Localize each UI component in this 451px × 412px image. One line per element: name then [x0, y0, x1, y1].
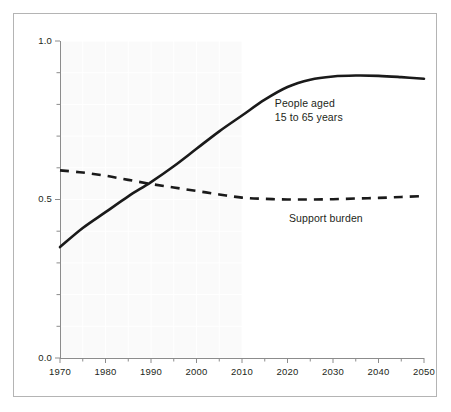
annotation-people-line2: 15 to 65 years — [275, 111, 343, 125]
x-tick-label-2040: 2040 — [366, 366, 392, 377]
x-tick-label-2030: 2030 — [320, 366, 346, 377]
annotation-people-aged: People aged 15 to 65 years — [275, 97, 343, 124]
x-tick-label-2000: 2000 — [184, 366, 210, 377]
annotation-support-burden: Support burden — [289, 212, 363, 226]
chart-plot-svg — [0, 0, 451, 412]
x-tick-label-1990: 1990 — [138, 366, 164, 377]
x-tick-label-1970: 1970 — [47, 366, 73, 377]
annotation-people-line1: People aged — [275, 97, 343, 111]
x-tick-label-2050: 2050 — [411, 366, 437, 377]
y-axis-ticks — [55, 41, 60, 358]
y-tick-label-1: 1.0 — [26, 35, 52, 46]
x-tick-label-1980: 1980 — [93, 366, 119, 377]
y-tick-label-2: 0.5 — [26, 193, 52, 204]
x-tick-label-2020: 2020 — [275, 366, 301, 377]
chart-container: 1.0 0.5 0.0 1970 1980 1990 2000 2010 202… — [0, 0, 451, 412]
x-tick-label-2010: 2010 — [229, 366, 255, 377]
y-tick-label-3: 0.0 — [26, 352, 52, 363]
